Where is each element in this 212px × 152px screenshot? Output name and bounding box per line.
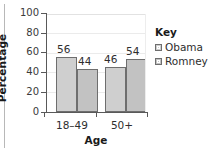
bar-value-romney-50-plus: 54 xyxy=(126,46,139,57)
bar-value-obama-18-49: 56 xyxy=(57,44,70,55)
legend-swatch-romney-icon xyxy=(155,58,162,65)
y-axis-tick-20 xyxy=(41,92,46,93)
x-axis-tick-separator xyxy=(96,112,97,117)
y-axis-tick-label-100: 100 xyxy=(6,8,39,18)
x-axis-group-label-50-plus: 50+ xyxy=(98,119,146,131)
legend-item-obama: Obama xyxy=(155,41,211,53)
y-axis-tick-80 xyxy=(41,33,46,34)
y-axis-tick-100 xyxy=(41,13,46,14)
bar-romney-18-49 xyxy=(77,69,98,112)
bar-value-romney-18-49: 44 xyxy=(78,56,91,67)
y-axis-tick-label-0: 0 xyxy=(6,107,39,117)
legend-label-obama: Obama xyxy=(165,41,203,53)
x-axis-group-label-18-49: 18–49 xyxy=(48,119,96,131)
plot-area-right-edge xyxy=(145,14,146,112)
bar-chart-figure: Percentage 100 80 60 40 20 0 56 44 46 54… xyxy=(0,0,212,152)
bar-obama-50-plus xyxy=(105,67,126,112)
legend-label-romney: Romney xyxy=(165,55,208,67)
y-axis-tick-label-60: 60 xyxy=(6,47,39,57)
plot-area xyxy=(47,14,145,112)
legend-swatch-obama-icon xyxy=(155,44,162,51)
gridline-80 xyxy=(47,33,145,34)
legend-item-romney: Romney xyxy=(155,55,211,67)
x-axis-tick-end xyxy=(147,112,148,117)
legend-title: Key xyxy=(155,26,211,38)
y-axis-tick-label-20: 20 xyxy=(6,87,39,97)
legend: Key Obama Romney xyxy=(155,26,211,69)
bar-romney-50-plus xyxy=(126,59,146,112)
y-axis-tick-label-80: 80 xyxy=(6,28,39,38)
bar-value-obama-50-plus: 46 xyxy=(104,54,117,65)
x-axis-title: Age xyxy=(47,134,145,146)
gridline-100 xyxy=(47,14,145,15)
y-axis-tick-40 xyxy=(41,72,46,73)
bar-obama-18-49 xyxy=(56,57,77,112)
x-axis-tick-start xyxy=(44,112,45,117)
y-axis-tick-label-40: 40 xyxy=(6,67,39,77)
y-axis-tick-60 xyxy=(41,52,46,53)
